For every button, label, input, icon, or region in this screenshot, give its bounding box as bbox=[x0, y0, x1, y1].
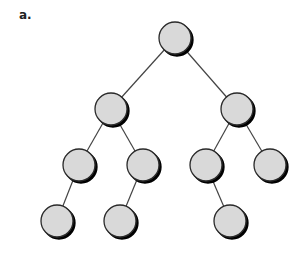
tree-edges bbox=[57, 38, 270, 221]
tree-node bbox=[190, 149, 222, 181]
tree-node bbox=[221, 93, 253, 125]
tree-node bbox=[254, 149, 286, 181]
tree-node bbox=[41, 205, 73, 237]
tree-node bbox=[159, 22, 191, 54]
tree-node bbox=[63, 149, 95, 181]
tree-node bbox=[127, 149, 159, 181]
tree-node bbox=[214, 205, 246, 237]
binary-tree-diagram bbox=[0, 0, 303, 253]
tree-node bbox=[95, 93, 127, 125]
tree-node bbox=[104, 205, 136, 237]
